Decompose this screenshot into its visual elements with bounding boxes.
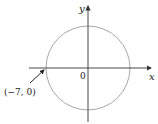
y-axis-label: y [78, 3, 85, 14]
circle-diagram: y x 0 (−7, 0) [0, 0, 158, 124]
point-label: (−7, 0) [4, 87, 36, 97]
annotation-arrow [30, 70, 44, 83]
x-axis-label: x [149, 71, 155, 82]
origin-label: 0 [80, 71, 86, 81]
